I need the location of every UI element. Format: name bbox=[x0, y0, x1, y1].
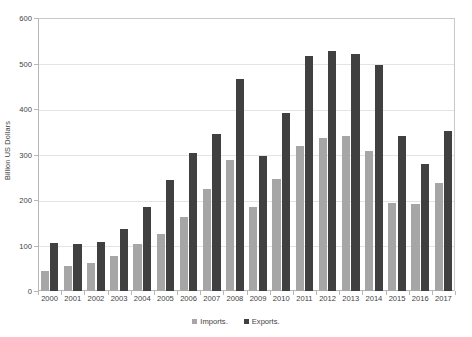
x-tick-mark bbox=[293, 291, 294, 295]
bar-imports bbox=[411, 204, 419, 291]
bar-imports bbox=[133, 244, 141, 291]
bar-exports bbox=[328, 51, 336, 291]
y-tick-label: 500 bbox=[0, 59, 32, 68]
y-tick-label: 0 bbox=[0, 287, 32, 296]
bar-exports bbox=[166, 180, 174, 291]
x-tick-mark bbox=[84, 291, 85, 295]
x-tick-label: 2010 bbox=[273, 294, 290, 303]
bar-imports bbox=[388, 203, 396, 291]
x-tick-label: 2002 bbox=[87, 294, 104, 303]
bar-group bbox=[249, 18, 267, 291]
bar-group bbox=[41, 18, 59, 291]
bar-exports bbox=[398, 136, 406, 291]
bar-imports bbox=[64, 266, 72, 291]
x-tick-mark bbox=[339, 291, 340, 295]
y-tick-label: 600 bbox=[0, 14, 32, 23]
bar-imports bbox=[157, 234, 165, 291]
x-tick-label: 2008 bbox=[226, 294, 243, 303]
bar-imports bbox=[41, 271, 49, 291]
bar-imports bbox=[319, 138, 327, 291]
x-tick-label: 2005 bbox=[157, 294, 174, 303]
x-tick-label: 2014 bbox=[365, 294, 382, 303]
x-tick-mark bbox=[316, 291, 317, 295]
x-tick-label: 2006 bbox=[180, 294, 197, 303]
bar-exports bbox=[236, 79, 244, 291]
bar-group bbox=[157, 18, 175, 291]
x-tick-label: 2001 bbox=[64, 294, 81, 303]
y-tick-mark bbox=[34, 155, 38, 156]
bar-group bbox=[64, 18, 82, 291]
legend-label-imports: Imports. bbox=[200, 317, 227, 326]
bar-chart: Billion US Dollars 200020012002200320042… bbox=[0, 0, 472, 337]
bar-exports bbox=[73, 244, 81, 291]
bar-exports bbox=[305, 56, 313, 291]
y-tick-label: 400 bbox=[0, 105, 32, 114]
x-tick-label: 2003 bbox=[111, 294, 128, 303]
x-tick-mark bbox=[432, 291, 433, 295]
bar-exports bbox=[189, 153, 197, 291]
x-tick-mark bbox=[362, 291, 363, 295]
x-tick-label: 2017 bbox=[435, 294, 452, 303]
bar-group bbox=[319, 18, 337, 291]
bar-group bbox=[435, 18, 453, 291]
legend-item-imports: Imports. bbox=[192, 317, 227, 326]
bar-imports bbox=[249, 207, 257, 291]
bar-exports bbox=[421, 164, 429, 291]
bar-group bbox=[203, 18, 221, 291]
x-tick-label: 2009 bbox=[250, 294, 267, 303]
y-tick-mark bbox=[34, 200, 38, 201]
x-tick-label: 2000 bbox=[41, 294, 58, 303]
bar-group bbox=[296, 18, 314, 291]
y-tick-mark bbox=[34, 246, 38, 247]
x-tick-mark bbox=[61, 291, 62, 295]
bar-exports bbox=[143, 207, 151, 291]
bar-exports bbox=[212, 134, 220, 291]
y-tick-label: 300 bbox=[0, 150, 32, 159]
bar-exports bbox=[120, 229, 128, 291]
bar-imports bbox=[110, 256, 118, 291]
bar-group bbox=[226, 18, 244, 291]
bar-group bbox=[342, 18, 360, 291]
chart-legend: Imports. Exports. bbox=[0, 317, 472, 326]
bar-group bbox=[388, 18, 406, 291]
y-tick-label: 200 bbox=[0, 196, 32, 205]
x-tick-mark bbox=[200, 291, 201, 295]
bar-exports bbox=[351, 54, 359, 292]
x-tick-mark bbox=[270, 291, 271, 295]
bar-group bbox=[87, 18, 105, 291]
bar-imports bbox=[180, 217, 188, 291]
y-tick-mark bbox=[34, 109, 38, 110]
bar-imports bbox=[87, 263, 95, 291]
y-tick-mark bbox=[34, 18, 38, 19]
x-tick-mark bbox=[131, 291, 132, 295]
bar-imports bbox=[203, 189, 211, 291]
legend-item-exports: Exports. bbox=[244, 317, 280, 326]
bars-layer bbox=[38, 18, 455, 291]
bar-exports bbox=[50, 243, 58, 291]
bar-imports bbox=[272, 179, 280, 291]
x-tick-label: 2011 bbox=[296, 294, 312, 303]
bar-group bbox=[365, 18, 383, 291]
x-tick-mark bbox=[386, 291, 387, 295]
x-tick-mark bbox=[108, 291, 109, 295]
x-tick-mark bbox=[154, 291, 155, 295]
bar-group bbox=[133, 18, 151, 291]
bar-group bbox=[110, 18, 128, 291]
imports-swatch-icon bbox=[192, 319, 197, 324]
x-axis-labels: 2000200120022003200420052006200720082009… bbox=[38, 294, 455, 310]
bar-exports bbox=[97, 242, 105, 291]
x-tick-label: 2004 bbox=[134, 294, 151, 303]
bar-exports bbox=[375, 65, 383, 291]
x-tick-label: 2007 bbox=[203, 294, 220, 303]
y-tick-mark bbox=[34, 64, 38, 65]
x-tick-mark bbox=[177, 291, 178, 295]
bar-exports bbox=[444, 131, 452, 291]
x-tick-label: 2015 bbox=[389, 294, 406, 303]
exports-swatch-icon bbox=[244, 319, 249, 324]
x-tick-label: 2012 bbox=[319, 294, 336, 303]
x-tick-mark bbox=[223, 291, 224, 295]
x-tick-mark bbox=[247, 291, 248, 295]
bar-imports bbox=[435, 183, 443, 291]
bar-group bbox=[272, 18, 290, 291]
x-tick-mark bbox=[409, 291, 410, 295]
